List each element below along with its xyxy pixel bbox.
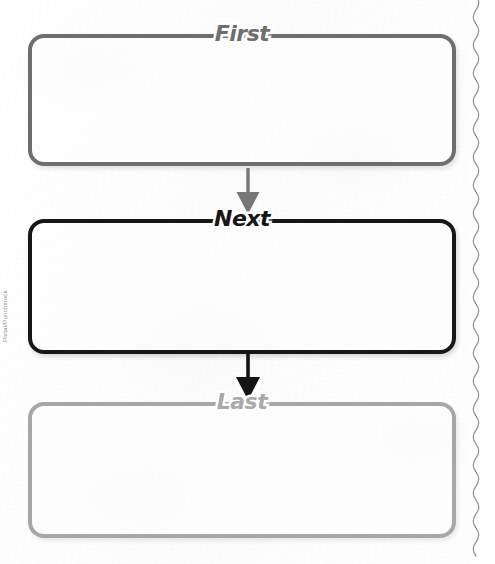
flow-box-next-label: Next <box>209 208 275 230</box>
perforated-page-edge-icon <box>469 0 483 564</box>
flow-box-last-label-text: Last <box>217 391 267 413</box>
flow-box-next[interactable]: Next <box>28 219 456 354</box>
flow-box-first-writing-area[interactable] <box>42 44 442 156</box>
flow-box-last[interactable]: Last <box>28 402 456 538</box>
flow-box-last-label: Last <box>212 391 272 413</box>
flow-box-first-label-text: First <box>215 23 270 45</box>
flow-box-last-writing-area[interactable] <box>42 412 442 528</box>
flow-box-first[interactable]: First <box>28 34 456 166</box>
flow-box-first-label: First <box>210 23 275 45</box>
flow-box-next-label-text: Next <box>214 208 270 230</box>
flow-box-next-writing-area[interactable] <box>42 229 442 344</box>
worksheet-page: First Next Last <box>0 0 495 564</box>
photo-credit: Pixtal/Punchstock <box>1 222 13 342</box>
